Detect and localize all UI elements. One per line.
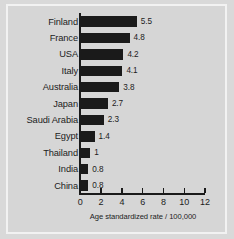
bar-value-label: 4.2 [127,50,138,59]
bar-group: 2.7 [80,96,123,111]
bar-value-label: 3.8 [123,83,134,92]
bar-group: 4.8 [80,30,145,45]
y-axis-line [79,13,81,194]
bar-group: 2.3 [80,112,119,127]
bar-row: Italy 4.1 [0,63,234,78]
bar [80,66,122,76]
bar-row: Egypt 1.4 [0,129,234,144]
x-axis-tick [204,188,205,193]
chart-figure: Finland 5.5 France 4.8 USA 4.2 Italy [0,0,234,239]
bar-value-label: 4.1 [126,66,137,75]
category-label: Thailand [0,148,78,158]
category-label: Japan [0,99,78,109]
bar-group: 5.5 [80,14,152,29]
category-label: Egypt [0,131,78,141]
x-axis-tick [184,188,185,193]
bar-group: 1.4 [80,129,110,144]
category-label: France [0,33,78,43]
bar-row: Finland 5.5 [0,14,234,29]
bar-group: 0.8 [80,162,103,177]
x-axis-tick-label: 4 [119,197,124,207]
bar [80,148,90,158]
bar [80,98,108,108]
bar-row: Japan 2.7 [0,96,234,111]
bar-group: 4.1 [80,63,137,78]
bar-row: Australia 3.8 [0,80,234,95]
bar-value-label: 0.8 [92,165,103,174]
bar-row: Thailand 1 [0,145,234,160]
x-axis-title: Age standardized rate / 100,000 [80,212,206,221]
x-axis-tick [100,188,101,193]
x-axis-tick [80,188,81,193]
bar [80,82,119,92]
bar-group: 1 [80,145,99,160]
bar [80,180,88,190]
category-label: USA [0,49,78,59]
x-axis-tick [121,188,122,193]
bar-value-label: 1 [94,148,98,157]
bar-row: France 4.8 [0,30,234,45]
bar [80,49,123,59]
category-label: Finland [0,17,78,27]
x-axis-tick-label: 6 [140,197,145,207]
category-label: China [0,181,78,191]
bar [80,33,130,43]
bar [80,115,104,125]
x-axis-tick-label: 0 [78,197,83,207]
category-label: India [0,164,78,174]
bar-row: Saudi Arabia 2.3 [0,112,234,127]
x-axis-tick-label: 10 [179,197,189,207]
category-label: Italy [0,66,78,76]
bar-value-label: 5.5 [141,17,152,26]
bar-value-label: 2.3 [108,115,119,124]
category-label: Australia [0,82,78,92]
x-axis-tick [142,188,143,193]
x-axis-line [79,193,205,195]
bar-value-label: 1.4 [99,132,110,141]
plot-area: Finland 5.5 France 4.8 USA 4.2 Italy [0,0,234,239]
bar-group: 3.8 [80,80,134,95]
bar [80,131,95,141]
bar-row: USA 4.2 [0,47,234,62]
bar-row: India 0.8 [0,162,234,177]
bar-value-label: 2.7 [112,99,123,108]
bar [80,16,137,26]
x-axis-tick [163,188,164,193]
bar-row: China 0.8 [0,178,234,193]
x-axis-tick-label: 8 [161,197,166,207]
x-axis-tick-label: 2 [99,197,104,207]
bar-value-label: 4.8 [134,33,145,42]
category-label: Saudi Arabia [0,115,78,125]
x-axis-tick-label: 12 [200,197,210,207]
bar-group: 4.2 [80,47,138,62]
bar [80,164,88,174]
